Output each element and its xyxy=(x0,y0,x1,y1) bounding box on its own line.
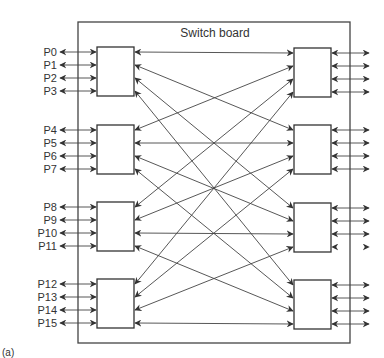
switch-board-diagram: Switch board P0P1P2P3P4P5P6P7P8P9P10P11P… xyxy=(0,0,384,358)
port-label: P11 xyxy=(38,240,57,252)
figure-caption: (a) xyxy=(2,347,14,358)
right-switch-box xyxy=(294,48,331,97)
port-label: P15 xyxy=(37,317,57,329)
port-label: P7 xyxy=(44,163,57,175)
port-label: P4 xyxy=(44,124,57,136)
port-label: P9 xyxy=(44,214,57,226)
port-label: P14 xyxy=(37,304,57,316)
interconnect-link xyxy=(135,323,293,324)
port-label: P3 xyxy=(44,85,57,97)
right-switch-box xyxy=(294,280,331,329)
port-label: P6 xyxy=(44,150,57,162)
interconnect-links xyxy=(135,52,293,324)
port-label: P12 xyxy=(37,278,57,290)
port-label: P8 xyxy=(44,201,57,213)
board-title: Switch board xyxy=(180,26,249,40)
left-switch-box xyxy=(97,202,134,251)
right-switch-box xyxy=(294,125,331,174)
port-labels: P0P1P2P3P4P5P6P7P8P9P10P11P12P13P14P15 xyxy=(37,46,57,329)
port-label: P1 xyxy=(44,59,57,71)
left-switch-box xyxy=(97,47,134,96)
port-label: P10 xyxy=(37,227,57,239)
interconnect-link xyxy=(135,52,293,53)
port-label: P2 xyxy=(44,72,57,84)
left-switch-box xyxy=(97,125,134,174)
left-switch-box xyxy=(97,279,134,328)
port-label: P5 xyxy=(44,137,57,149)
port-label: P13 xyxy=(37,291,57,303)
right-switch-box xyxy=(294,203,331,252)
port-label: P0 xyxy=(44,46,57,58)
